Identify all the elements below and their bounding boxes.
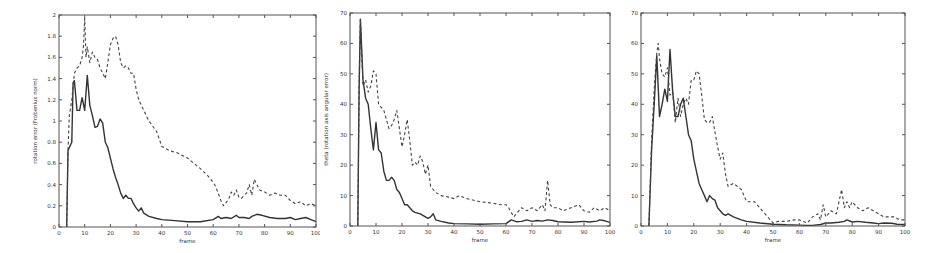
y-tick-label: 1.4: [47, 76, 56, 82]
y-tick-label: 70: [631, 10, 638, 16]
x-tick-label: 20: [107, 230, 114, 236]
x-tick-label: 100: [900, 229, 911, 235]
plot-frame: [59, 15, 316, 227]
y-tick-label: 20: [631, 162, 638, 168]
chart-svg: 0102030405060708090100010203040506070fra…: [320, 0, 625, 253]
y-tick-label: 0.4: [47, 182, 56, 188]
y-tick-label: 40: [340, 101, 347, 107]
x-tick-label: 70: [529, 229, 536, 235]
chart-phi-error: 0102030405060708090100010203040506070fra…: [625, 0, 949, 253]
series-dashed-line: [649, 43, 905, 226]
y-tick-label: 1.8: [47, 33, 56, 39]
y-tick-label: 0.2: [47, 203, 56, 209]
chart-svg: 0102030405060708090100010203040506070fra…: [625, 0, 949, 253]
chart-rotation-error: 010203040506070809010000.20.40.60.811.21…: [0, 0, 320, 253]
x-tick-label: 80: [849, 229, 856, 235]
y-tick-label: 70: [340, 10, 347, 16]
y-tick-label: 0.6: [47, 160, 56, 166]
y-axis-label: theta (rotation axis angular error): [323, 73, 330, 166]
y-tick-label: 30: [631, 132, 638, 138]
x-tick-label: 60: [503, 229, 510, 235]
x-tick-label: 10: [664, 229, 671, 235]
x-tick-label: 50: [184, 230, 191, 236]
x-tick-label: 30: [133, 230, 140, 236]
y-tick-label: 40: [631, 101, 638, 107]
x-tick-label: 60: [796, 229, 803, 235]
x-tick-label: 50: [477, 229, 484, 235]
series-solid-line: [67, 75, 316, 227]
series-dashed-line: [358, 19, 610, 226]
x-tick-label: 90: [287, 230, 294, 236]
y-tick-label: 1: [53, 118, 57, 124]
chart-svg: 010203040506070809010000.20.40.60.811.21…: [0, 0, 320, 253]
x-tick-label: 20: [399, 229, 406, 235]
x-tick-label: 20: [690, 229, 697, 235]
x-tick-label: 30: [717, 229, 724, 235]
y-tick-label: 0: [53, 224, 57, 230]
y-tick-label: 0: [635, 223, 639, 229]
x-axis-label: frame: [472, 237, 489, 243]
x-tick-label: 10: [81, 230, 88, 236]
x-tick-label: 30: [425, 229, 432, 235]
x-tick-label: 50: [770, 229, 777, 235]
y-tick-label: 50: [631, 71, 638, 77]
plot-frame: [350, 13, 610, 226]
x-tick-label: 100: [605, 229, 616, 235]
y-tick-label: 30: [340, 132, 347, 138]
chart-theta-error: 0102030405060708090100010203040506070fra…: [320, 0, 625, 253]
y-tick-label: 50: [340, 71, 347, 77]
x-tick-label: 60: [210, 230, 217, 236]
y-tick-label: 2: [53, 12, 57, 18]
x-tick-label: 70: [822, 229, 829, 235]
plot-frame: [641, 13, 905, 226]
x-tick-label: 80: [261, 230, 268, 236]
x-tick-label: 80: [555, 229, 562, 235]
x-tick-label: 40: [158, 230, 165, 236]
x-tick-label: 40: [743, 229, 750, 235]
y-tick-label: 1.2: [47, 97, 56, 103]
y-tick-label: 1.6: [47, 54, 56, 60]
y-tick-label: 60: [340, 40, 347, 46]
y-tick-label: 10: [340, 193, 347, 199]
x-tick-label: 90: [581, 229, 588, 235]
x-tick-label: 40: [451, 229, 458, 235]
x-tick-label: 0: [348, 229, 352, 235]
x-tick-label: 0: [57, 230, 61, 236]
y-tick-label: 10: [631, 193, 638, 199]
x-tick-label: 70: [235, 230, 242, 236]
x-axis-label: frame: [765, 237, 782, 243]
x-tick-label: 10: [373, 229, 380, 235]
y-tick-label: 20: [340, 162, 347, 168]
x-tick-label: 100: [311, 230, 320, 236]
y-tick-label: 0.8: [47, 139, 56, 145]
x-tick-label: 0: [639, 229, 643, 235]
series-solid-line: [649, 50, 905, 227]
series-solid-line: [358, 19, 610, 226]
y-tick-label: 0: [344, 223, 348, 229]
x-axis-label: frame: [179, 238, 196, 244]
y-tick-label: 60: [631, 40, 638, 46]
y-axis-label: rotation error (Frobenius norm): [32, 78, 38, 163]
x-tick-label: 90: [875, 229, 882, 235]
series-dashed-line: [67, 18, 316, 227]
